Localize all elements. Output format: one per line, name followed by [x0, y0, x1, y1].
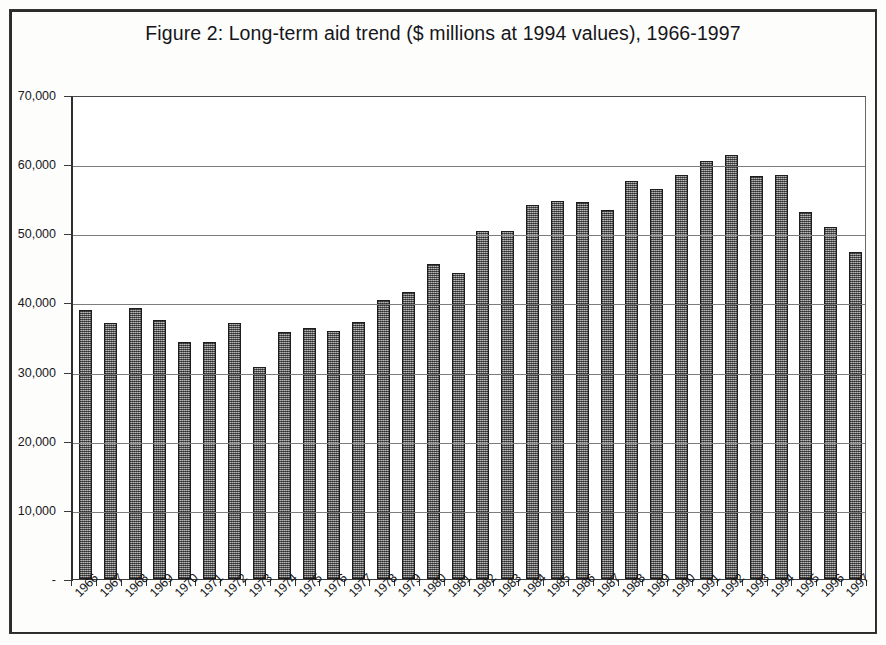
bar — [104, 323, 117, 579]
y-tick-label: 40,000 — [18, 296, 56, 310]
y-axis-labels: 70,00060,00050,00040,00030,00020,00010,0… — [0, 96, 62, 580]
bar — [203, 342, 216, 579]
figure-container: Figure 2: Long-term aid trend ($ million… — [0, 0, 886, 645]
bar — [824, 227, 837, 579]
bar — [625, 181, 638, 579]
gridline — [73, 443, 865, 444]
y-tick-mark — [64, 234, 73, 235]
bar-series — [73, 97, 865, 579]
bar — [551, 201, 564, 579]
bar — [650, 189, 663, 579]
bar — [700, 161, 713, 579]
bar — [377, 300, 390, 579]
y-tick-mark — [64, 303, 73, 304]
x-axis-labels: 1966196719681969197019711972197319741975… — [71, 580, 866, 645]
bar — [402, 292, 415, 579]
y-tick-mark — [64, 580, 73, 581]
y-tick-label: 70,000 — [18, 89, 56, 103]
plot-area — [71, 96, 866, 580]
gridline — [73, 235, 865, 236]
chart-title: Figure 2: Long-term aid trend ($ million… — [0, 22, 886, 45]
bar — [849, 252, 862, 579]
bar — [228, 323, 241, 579]
bar — [303, 328, 316, 579]
bar — [327, 331, 340, 579]
bar — [601, 210, 614, 579]
bar — [501, 231, 514, 579]
bar — [278, 332, 291, 579]
bar — [79, 310, 92, 579]
bar — [476, 231, 489, 579]
bar — [725, 155, 738, 579]
bar — [452, 273, 465, 579]
bar — [153, 320, 166, 579]
y-tick-label: 30,000 — [18, 366, 56, 380]
y-tick-label: 20,000 — [18, 435, 56, 449]
y-tick-mark — [64, 96, 73, 97]
y-tick-mark — [64, 373, 73, 374]
y-tick-label: - — [52, 573, 56, 587]
bar — [427, 264, 440, 579]
gridline — [73, 374, 865, 375]
gridline — [73, 304, 865, 305]
bar — [352, 322, 365, 579]
y-tick-mark — [64, 511, 73, 512]
gridline — [73, 166, 865, 167]
y-tick-mark — [64, 165, 73, 166]
bar — [750, 176, 763, 579]
bar — [178, 342, 191, 579]
y-tick-label: 50,000 — [18, 227, 56, 241]
gridline — [73, 512, 865, 513]
bar — [253, 367, 266, 579]
bar — [799, 212, 812, 579]
y-tick-label: 60,000 — [18, 158, 56, 172]
y-tick-label: 10,000 — [18, 504, 56, 518]
bar — [526, 205, 539, 579]
y-tick-mark — [64, 442, 73, 443]
bar — [576, 202, 589, 579]
